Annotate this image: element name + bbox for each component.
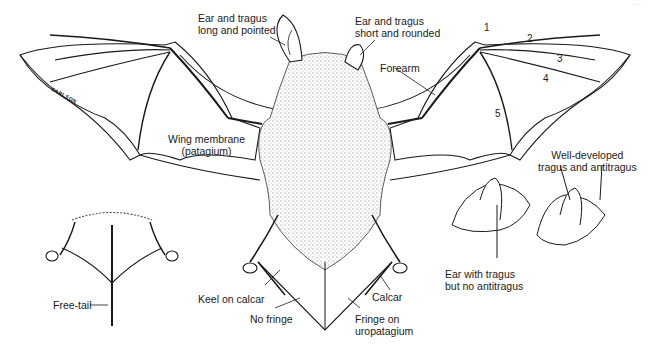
ear-insets (452, 165, 605, 258)
label-fringe-on-uropatagium: Fringe on uropatagium (355, 313, 413, 337)
label-free-tail: Free-tail (53, 299, 92, 311)
label-keel-on-calcar: Keel on calcar (198, 293, 265, 305)
bat-body (259, 15, 392, 270)
label-wing-membrane: Wing membrane (patagium) (168, 133, 245, 157)
digit-3-label: 3 (557, 53, 563, 64)
left-wing (20, 35, 280, 180)
label-well-developed-tragus: Well-developed tragus and antitragus (538, 149, 637, 173)
label-ear-with-tragus: Ear with tragus but no antitragus (445, 268, 523, 292)
page-corner-mark: · · · (633, 1, 644, 8)
digit-2-label: 2 (527, 33, 533, 44)
label-ear-long: Ear and tragus long and pointed (198, 12, 276, 36)
label-ear-short: Ear and tragus short and rounded (355, 15, 440, 39)
label-forearm: Forearm (380, 62, 420, 74)
label-no-fringe: No fringe (250, 313, 293, 325)
digit-5-label: 5 (495, 108, 501, 119)
bat-anatomy-figure: · · · CARLSON Ear and tragus long and po… (0, 0, 650, 345)
digit-1-label: 1 (484, 22, 490, 33)
label-calcar: Calcar (372, 291, 402, 303)
digit-4-label: 4 (543, 73, 549, 84)
